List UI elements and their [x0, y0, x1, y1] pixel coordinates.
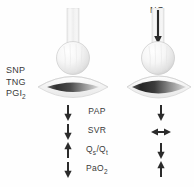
table-row: SVR: [0, 122, 194, 141]
arrow-up-icon: [150, 160, 172, 179]
arrow-right-svr: [150, 122, 172, 141]
pao2-main: PaO: [86, 163, 104, 173]
arrow-down-icon: [150, 103, 172, 122]
arrow-right-pao2: [150, 160, 172, 179]
drug-label-tng-text: TNG: [6, 77, 26, 87]
diagram-canvas: SNP TNG PGI2 NO: [0, 0, 194, 187]
arrow-left-right-icon: [150, 122, 172, 141]
alveolar-unit-left: [36, 8, 110, 100]
qsqt-sub-t: t: [106, 149, 108, 156]
qsqt-slash: /Q: [96, 144, 106, 154]
arrow-right-qsqt: [150, 141, 172, 160]
drug-label-pgi2-subscript: 2: [22, 93, 26, 100]
drug-label-pgi2-text: PGI: [6, 88, 22, 98]
drug-label-pgi2: PGI2: [6, 88, 26, 102]
drug-label-snp-text: SNP: [6, 65, 25, 75]
drug-label-group: SNP TNG PGI2: [6, 65, 26, 102]
table-row: Qs/Qt: [0, 141, 194, 160]
arrow-down-icon: [150, 141, 172, 160]
alveolar-unit-left-graphic: [36, 8, 110, 100]
table-row: PaO2: [0, 160, 194, 179]
drug-label-snp: SNP: [6, 65, 26, 77]
table-row: PAP: [0, 103, 194, 122]
alveolar-unit-right-graphic: [126, 8, 194, 100]
parameter-table: PAP SVR: [0, 103, 194, 179]
drug-label-tng: TNG: [6, 77, 26, 89]
qsqt-main: Q: [86, 144, 93, 154]
alveolar-unit-right: [126, 8, 194, 100]
pao2-sub: 2: [104, 168, 108, 175]
arrow-right-pap: [150, 103, 172, 122]
